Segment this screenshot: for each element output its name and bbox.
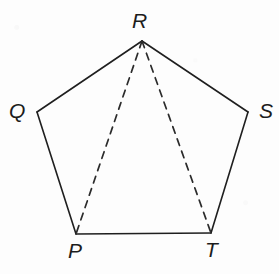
diagonal-RP bbox=[76, 41, 142, 234]
vertex-label-p: P bbox=[68, 240, 82, 261]
vertex-label-r: R bbox=[132, 10, 147, 31]
dashed-edge-group bbox=[76, 41, 211, 234]
edge-RS bbox=[142, 41, 248, 112]
edge-TP bbox=[76, 233, 211, 234]
edge-PQ bbox=[37, 112, 76, 234]
edge-ST bbox=[211, 112, 248, 233]
vertex-label-t: T bbox=[205, 239, 218, 260]
pentagon-svg bbox=[0, 0, 279, 274]
vertex-label-q: Q bbox=[9, 100, 25, 121]
pentagon-diagram: PQRST bbox=[0, 0, 279, 274]
edge-QR bbox=[37, 41, 142, 112]
diagonal-RT bbox=[142, 41, 211, 233]
solid-edge-group bbox=[37, 41, 248, 234]
vertex-label-s: S bbox=[259, 100, 273, 121]
